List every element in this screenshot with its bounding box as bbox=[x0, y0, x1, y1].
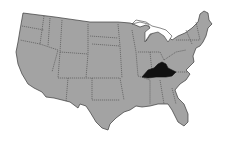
us-landmass bbox=[16, 11, 212, 130]
us-map-graphic bbox=[0, 0, 229, 141]
